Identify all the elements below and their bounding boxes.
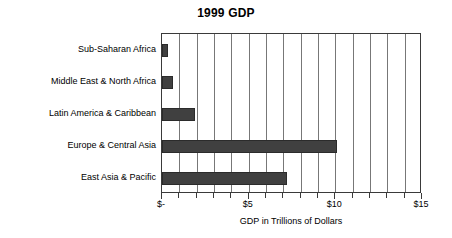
chart-title: 1999 GDP [0, 6, 452, 20]
bar-row [162, 171, 420, 185]
minor-tick-mark [178, 193, 179, 198]
category-label: Sub-Saharan Africa [0, 44, 156, 55]
category-label: Latin America & Caribbean [0, 108, 156, 119]
category-label: Europe & Central Asia [0, 140, 156, 151]
bar [162, 140, 337, 153]
bar-row [162, 139, 420, 153]
x-axis-tick-labels: $-$5$10$15 [0, 199, 452, 213]
x-axis-title: GDP in Trillions of Dollars [161, 216, 421, 226]
minor-tick-mark [282, 193, 283, 198]
bar [162, 108, 195, 121]
x-tick-label: $5 [243, 199, 253, 210]
minor-tick-mark [369, 193, 370, 198]
x-tick-label: $15 [413, 199, 428, 210]
minor-tick-mark [213, 193, 214, 198]
x-tick-label: $- [157, 199, 165, 210]
minor-tick-mark [230, 193, 231, 198]
gdp-bar-chart: 1999 GDP Sub-Saharan AfricaMiddle East &… [0, 0, 452, 238]
bar [162, 172, 287, 185]
plot-area [161, 33, 421, 193]
minor-tick-mark [196, 193, 197, 198]
bar-row [162, 75, 420, 89]
bar [162, 76, 173, 89]
minor-tick-mark [386, 193, 387, 198]
category-label: Middle East & North Africa [0, 76, 156, 87]
minor-tick-mark [300, 193, 301, 198]
bar [162, 44, 168, 57]
bars-layer [162, 34, 420, 192]
x-tick-label: $10 [327, 199, 342, 210]
minor-tick-mark [352, 193, 353, 198]
bar-row [162, 107, 420, 121]
category-label: East Asia & Pacific [0, 172, 156, 183]
minor-tick-mark [317, 193, 318, 198]
minor-tick-mark [404, 193, 405, 198]
minor-tick-mark [265, 193, 266, 198]
bar-row [162, 43, 420, 57]
category-axis-labels: Sub-Saharan AfricaMiddle East & North Af… [0, 33, 156, 193]
